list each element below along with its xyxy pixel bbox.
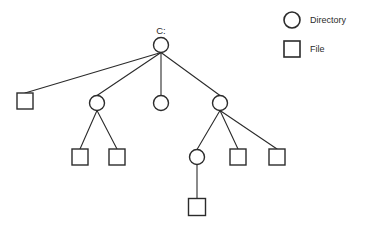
file-node[interactable] <box>72 149 88 165</box>
legend: DirectoryFile <box>284 12 347 57</box>
root-node-label: C: <box>156 25 166 36</box>
directory-node[interactable] <box>154 96 169 111</box>
tree-edge <box>197 111 220 150</box>
directory-node[interactable] <box>213 96 228 111</box>
file-node[interactable] <box>230 149 246 165</box>
tree-labels-layer: C: <box>156 25 166 36</box>
directory-node[interactable] <box>154 38 169 53</box>
file-node[interactable] <box>17 93 33 109</box>
legend-item-directory: Directory <box>284 12 347 28</box>
file-node[interactable] <box>189 199 206 216</box>
tree-edge <box>97 53 161 96</box>
directory-icon <box>284 12 300 28</box>
tree-edges-layer <box>25 53 277 199</box>
tree-edge <box>97 111 117 150</box>
directory-node[interactable] <box>90 96 105 111</box>
legend-item-file: File <box>284 41 325 57</box>
directory-tree-diagram: C: DirectoryFile <box>0 0 367 228</box>
tree-edge <box>161 53 220 96</box>
tree-nodes-layer <box>17 38 285 216</box>
directory-node[interactable] <box>190 150 205 165</box>
file-node[interactable] <box>109 149 125 165</box>
legend-item-label: File <box>310 44 325 54</box>
tree-edge <box>80 111 97 150</box>
file-icon <box>284 41 300 57</box>
diagram-canvas: C: DirectoryFile <box>0 0 367 228</box>
file-node[interactable] <box>269 149 285 165</box>
legend-item-label: Directory <box>310 15 347 25</box>
tree-edge <box>25 53 161 94</box>
